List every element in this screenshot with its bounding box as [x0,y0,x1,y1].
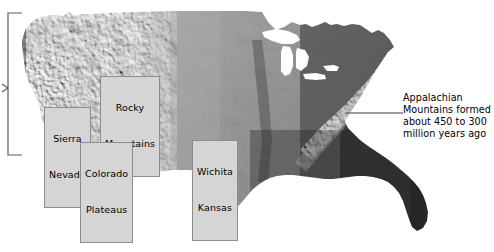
colorado-plateaus-label-line1: Colorado [85,168,128,180]
appalachian-annotation-line4: million years ago [403,128,494,140]
figure-canvas: Rocky Mountains Sierra Nevada Colorado P… [0,0,494,252]
appalachian-annotation-line3: about 450 to 300 [403,116,494,128]
west-coast-bracket [0,12,30,164]
appalachian-annotation: Appalachian Mountains formed about 450 t… [403,92,494,140]
appalachian-leader-line [345,112,403,114]
rocky-mountains-label-line1: Rocky [105,102,155,114]
appalachian-annotation-line1: Appalachian [403,92,494,104]
appalachian-annotation-line2: Mountains formed [403,104,494,116]
colorado-plateaus-label-line2: Plateaus [85,204,128,216]
colorado-plateaus-label[interactable]: Colorado Plateaus [80,142,133,243]
wichita-kansas-label[interactable]: Wichita Kansas [192,140,238,241]
wichita-kansas-label-line1: Wichita [197,166,233,178]
wichita-kansas-label-line2: Kansas [197,202,233,214]
